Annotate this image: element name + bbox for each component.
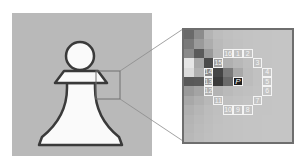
pixel-cell [184,39,194,49]
pixel-cell [184,133,194,143]
pixel-cell [194,133,204,143]
pixel-cell [243,68,253,78]
pixel-cell [223,39,233,49]
pixel-cell [194,115,204,125]
ring-pixel-4: 4 [262,68,272,77]
pixel-cell [272,39,282,49]
pixel-cell [233,133,243,143]
ring-pixel-6: 6 [262,86,272,95]
pixel-cell [213,68,223,78]
pixel-cell [213,115,223,125]
pawn-image-panel [12,13,152,156]
pixel-cell [194,68,204,78]
ring-pixel-5: 5 [262,77,272,86]
pixel-cell [282,86,292,96]
pixel-cell [243,58,253,68]
pixel-cell [253,133,263,143]
pixel-cell [204,39,214,49]
pixel-cell [272,105,282,115]
pixel-cell [262,133,272,143]
ring-pixel-9: 9 [233,105,243,114]
pixel-cell [233,68,243,78]
pixel-cell [204,115,214,125]
ring-pixel-15: 15 [213,58,223,67]
pixel-cell [262,115,272,125]
pixel-cell [233,39,243,49]
pixel-cell [253,68,263,78]
pixel-cell [213,105,223,115]
pixel-cell [253,86,263,96]
pixel-cell [282,39,292,49]
pixel-cell [282,133,292,143]
pixel-cell [243,133,253,143]
ring-pixel-13: 13 [204,77,214,86]
center-pixel-p: P [233,77,243,86]
pixel-cell [194,105,204,115]
pixel-cell [272,58,282,68]
pixel-cell [233,86,243,96]
pixel-cell [243,39,253,49]
pixel-cell [243,86,253,96]
ring-pixel-2: 2 [243,49,253,58]
pixel-cell [223,68,233,78]
pixel-cell [194,39,204,49]
pixel-cell [194,58,204,68]
ring-pixel-1: 1 [233,49,243,58]
pawn-icon [12,13,152,156]
pixel-cell [223,133,233,143]
pixel-cell [184,86,194,96]
pixel-cell [184,105,194,115]
pixel-cell [282,58,292,68]
pixel-cell [253,115,263,125]
pixel-cell [223,58,233,68]
ring-pixel-7: 7 [253,96,263,105]
ring-pixel-12: 12 [204,86,214,95]
ring-pixel-11: 11 [213,96,223,105]
pixel-cell [213,133,223,143]
ring-pixel-10: 10 [223,105,233,114]
pixel-cell [213,86,223,96]
magnified-pixel-grid: 12345678910111213141516P [182,28,294,144]
pixel-cell [272,86,282,96]
pixel-cell [213,39,223,49]
pixel-cell [223,86,233,96]
pixel-cell [184,68,194,78]
pixel-cell [272,115,282,125]
ring-pixel-14: 14 [204,68,214,77]
pixel-cell [243,115,253,125]
pixel-cell [262,105,272,115]
pixel-cell [233,58,243,68]
pixel-cell [282,105,292,115]
pixel-cell [184,58,194,68]
pixel-cell [253,105,263,115]
pixel-cell [204,58,214,68]
pixel-cell [272,68,282,78]
pixel-cell [262,58,272,68]
pixel-cell [194,86,204,96]
ring-pixel-8: 8 [243,105,253,114]
pixel-cell [272,133,282,143]
ring-pixel-16: 16 [223,49,233,58]
pixel-cell [282,68,292,78]
pixel-cell [204,105,214,115]
pixel-cell [223,115,233,125]
pixel-cell [253,39,263,49]
pixel-cell [233,115,243,125]
pixel-cell [184,115,194,125]
pixel-cell [204,133,214,143]
pixel-cell [282,115,292,125]
ring-pixel-3: 3 [253,58,263,67]
pixel-cell [262,39,272,49]
